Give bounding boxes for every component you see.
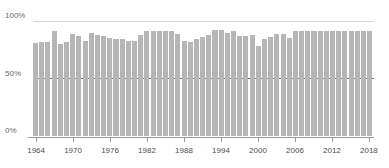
bar <box>225 33 230 137</box>
bar <box>243 36 248 136</box>
x-axis-label: 1970 <box>64 146 82 155</box>
bar <box>151 31 156 136</box>
bar <box>305 31 310 136</box>
y-axis-label-0: 0% <box>5 126 17 135</box>
x-axis-label: 2018 <box>360 146 378 155</box>
x-axis-label: 1994 <box>212 146 230 155</box>
bar <box>175 34 180 136</box>
bar-chart: 100% 50% 0% 1964197019761982198819942000… <box>0 0 389 168</box>
bar <box>324 31 329 136</box>
bar <box>101 36 106 136</box>
bar <box>336 31 341 136</box>
x-axis-tick <box>184 138 185 142</box>
bar <box>76 36 81 136</box>
bar <box>342 31 347 136</box>
bar <box>274 34 279 136</box>
bar <box>169 31 174 136</box>
bar <box>330 31 335 136</box>
bar <box>318 31 323 136</box>
bar <box>39 42 44 136</box>
x-axis-tick <box>110 138 111 142</box>
bar <box>206 35 211 136</box>
bar <box>361 31 366 136</box>
bar <box>355 31 360 136</box>
bar <box>281 34 286 136</box>
x-axis-label: 1988 <box>175 146 193 155</box>
x-axis-line <box>28 137 374 138</box>
x-axis-label: 2012 <box>323 146 341 155</box>
bar <box>194 39 199 136</box>
bar <box>219 30 224 136</box>
bar <box>299 31 304 136</box>
x-axis-tick <box>295 138 296 142</box>
x-axis-tick <box>221 138 222 142</box>
bar <box>144 31 149 136</box>
x-axis-label: 2006 <box>286 146 304 155</box>
bar <box>83 41 88 136</box>
bar <box>132 41 137 136</box>
bar <box>287 38 292 136</box>
x-axis-label: 1964 <box>27 146 45 155</box>
bar <box>33 43 38 136</box>
x-axis-tick <box>332 138 333 142</box>
bar <box>212 30 217 136</box>
y-axis-label-50: 50% <box>5 69 21 78</box>
bar <box>113 39 118 136</box>
bar <box>231 31 236 136</box>
x-axis-label: 2000 <box>249 146 267 155</box>
bar <box>45 42 50 136</box>
x-axis-tick <box>369 138 370 142</box>
bar-series <box>33 21 372 136</box>
bar <box>126 41 131 136</box>
bar <box>367 31 372 136</box>
bar <box>64 42 69 136</box>
x-axis-tick <box>36 138 37 142</box>
x-axis-tick <box>147 138 148 142</box>
bar <box>58 44 63 136</box>
bar <box>250 35 255 136</box>
bar <box>138 35 143 136</box>
bar <box>107 38 112 136</box>
bar <box>200 37 205 136</box>
bar <box>52 31 57 136</box>
bar <box>70 34 75 136</box>
x-axis-tick <box>73 138 74 142</box>
bar <box>349 31 354 136</box>
bar <box>268 37 273 136</box>
bar <box>256 46 261 136</box>
x-axis-label: 1982 <box>138 146 156 155</box>
bar <box>188 42 193 136</box>
bar <box>293 31 298 136</box>
bar <box>89 33 94 137</box>
bar <box>311 31 316 136</box>
x-axis-tick <box>258 138 259 142</box>
plot-area <box>33 21 372 136</box>
bar <box>182 41 187 136</box>
bar <box>262 39 267 136</box>
bar <box>157 31 162 136</box>
bar <box>237 36 242 136</box>
y-axis-label-100: 100% <box>5 11 25 20</box>
bar <box>95 35 100 136</box>
bar <box>120 39 125 136</box>
x-axis-label: 1976 <box>101 146 119 155</box>
bar <box>163 31 168 136</box>
